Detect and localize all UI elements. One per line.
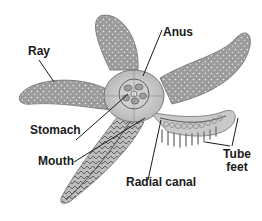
leader-line-anus [143, 30, 162, 76]
label-tube-feet-line2: feet [222, 161, 252, 174]
sea-star-diagram: Ray Anus Stomach Mouth Radial canal Tube… [0, 0, 262, 221]
ray-right [160, 33, 250, 104]
central-disc [104, 70, 164, 122]
label-radial-canal: Radial canal [126, 176, 196, 189]
label-mouth: Mouth [38, 155, 74, 168]
ray-lower-right [150, 110, 235, 147]
label-stomach: Stomach [30, 124, 81, 137]
leader-line-ray [39, 60, 54, 82]
label-tube-feet: Tube feet [222, 148, 252, 174]
ray-upper [95, 15, 138, 70]
label-ray: Ray [28, 45, 50, 58]
leader-line-radial-canal [148, 120, 161, 180]
ray-left [19, 80, 112, 110]
leader-line-tube-feet-a [205, 142, 230, 146]
label-anus: Anus [163, 26, 193, 39]
